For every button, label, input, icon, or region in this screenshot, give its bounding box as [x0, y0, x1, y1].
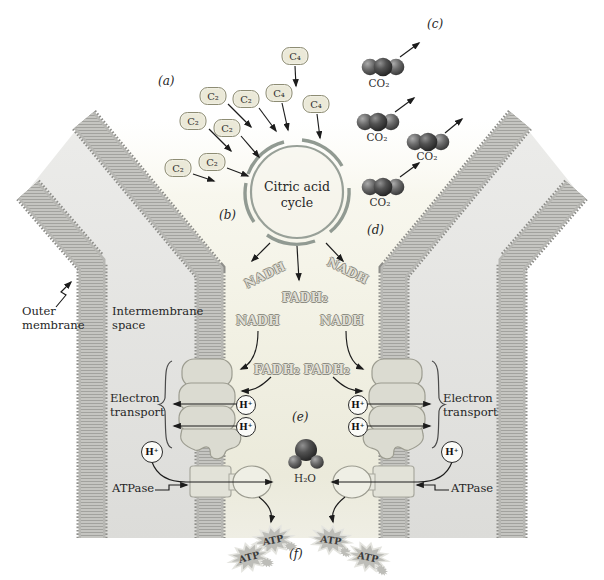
- c4-pill: C₄: [266, 84, 293, 102]
- h-plus-badge: H⁺: [236, 395, 256, 415]
- co2-molecule: [362, 178, 405, 197]
- atpase-label-right: ATPase: [451, 481, 493, 495]
- nadh-label: NADH: [320, 314, 364, 328]
- h2o-label: H₂O: [294, 472, 316, 484]
- c2-pill: C₂: [214, 119, 241, 137]
- fadh2-label: FADH₂: [304, 363, 351, 377]
- co2-label: CO₂: [370, 196, 391, 208]
- intermembrane-space-label: Intermembrane space: [112, 304, 200, 333]
- c4-pill: C₄: [282, 47, 309, 65]
- mitochondrion-metabolism-diagram: (a) (b) (c) (d) (e) (f) Outer membrane I…: [0, 0, 604, 580]
- panel-label-a: (a): [158, 74, 175, 88]
- co2-label: CO₂: [417, 150, 438, 162]
- panel-label-c: (c): [427, 17, 443, 31]
- atpase-label-left: ATPase: [112, 481, 154, 495]
- electron-transport-label-left: Electron transport: [110, 391, 162, 420]
- panel-label-e: (e): [292, 410, 308, 424]
- co2-molecule: [407, 133, 450, 152]
- c2-pill: C₂: [180, 112, 207, 130]
- fadh2-label: FADH₂: [282, 291, 329, 305]
- panel-label-d: (d): [367, 223, 384, 237]
- nadh-label: NADH: [236, 314, 280, 328]
- citric-acid-cycle-label: Citric acid cycle: [253, 179, 341, 210]
- h-plus-badge: H⁺: [141, 441, 163, 463]
- co2-label: CO₂: [367, 131, 388, 143]
- fadh2-label: FADH₂: [254, 363, 301, 377]
- h-plus-badge: H⁺: [441, 441, 463, 463]
- diagram-graphics: [0, 0, 604, 580]
- h-plus-badge: H⁺: [348, 395, 368, 415]
- co2-label: CO₂: [369, 77, 390, 89]
- c4-pill: C₄: [303, 95, 330, 113]
- electron-transport-complex: [179, 359, 241, 459]
- h-plus-badge: H⁺: [236, 417, 256, 437]
- outer-membrane: [28, 190, 92, 538]
- c2-pill: C₂: [200, 87, 227, 105]
- h-plus-badge: H⁺: [348, 417, 368, 437]
- c2-pill: C₂: [165, 159, 192, 177]
- panel-label-b: (b): [219, 208, 236, 222]
- panel-label-f: (f): [289, 547, 303, 561]
- electron-transport-label-right: Electron transport: [443, 391, 499, 420]
- c2-pill: C₂: [233, 90, 260, 108]
- outer-membrane-label: Outer membrane: [22, 304, 86, 333]
- co2-molecule: [362, 58, 405, 77]
- c2-pill: C₂: [199, 153, 226, 171]
- co2-molecule: [357, 113, 400, 132]
